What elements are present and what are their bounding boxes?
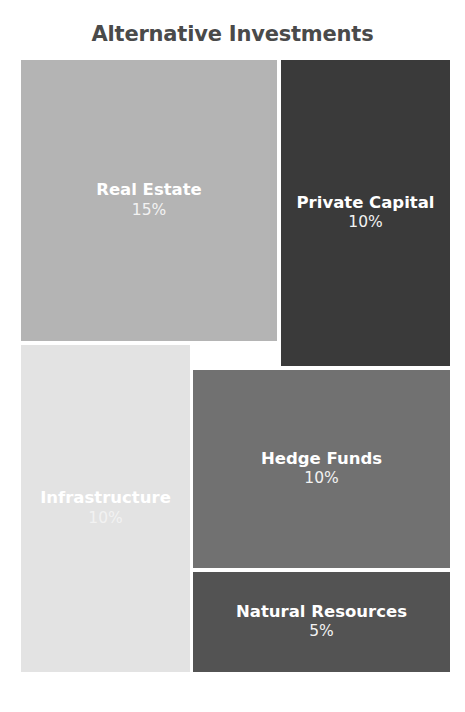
treemap-tile-natural-resources[interactable]: Natural Resources 5%	[193, 572, 450, 672]
treemap-plot-area: Real Estate 15% Private Capital 10% Infr…	[21, 60, 450, 672]
tile-label-hedge-funds: Hedge Funds	[261, 450, 382, 468]
chart-title: Alternative Investments	[0, 22, 465, 46]
treemap-tile-real-estate[interactable]: Real Estate 15%	[21, 60, 277, 341]
tile-label-infrastructure: Infrastructure	[40, 489, 171, 507]
treemap-tile-hedge-funds[interactable]: Hedge Funds 10%	[193, 370, 450, 568]
tile-value-real-estate: 15%	[132, 201, 166, 220]
tile-label-private-capital: Private Capital	[297, 194, 435, 212]
treemap-tile-infrastructure[interactable]: Infrastructure 10%	[21, 345, 190, 672]
tile-value-natural-resources: 5%	[309, 622, 334, 641]
tile-value-infrastructure: 10%	[88, 509, 122, 528]
tile-label-real-estate: Real Estate	[96, 181, 202, 199]
tile-label-natural-resources: Natural Resources	[236, 603, 407, 621]
tile-value-private-capital: 10%	[348, 213, 382, 232]
treemap-tile-private-capital[interactable]: Private Capital 10%	[281, 60, 450, 366]
tile-value-hedge-funds: 10%	[304, 469, 338, 488]
treemap-chart: Alternative Investments Real Estate 15% …	[0, 0, 465, 712]
